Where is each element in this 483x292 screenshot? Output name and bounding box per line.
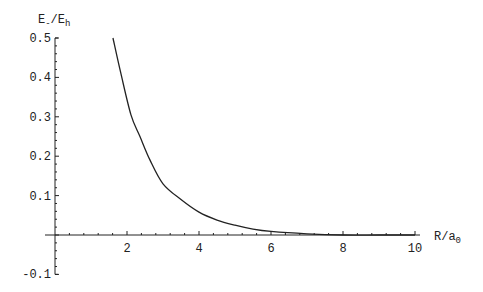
x-tick-label: 8 (339, 242, 346, 256)
x-tick-label: 4 (195, 242, 202, 256)
y-tick-label: -0.1 (22, 268, 51, 282)
y-tick-label: 0.3 (29, 111, 51, 125)
x-tick-label: 6 (267, 242, 274, 256)
chart: -0.10.10.20.30.40.5246810 E-/Eh R/a0 (0, 0, 483, 292)
tick-labels: -0.10.10.20.30.40.5246810 (22, 32, 422, 282)
x-tick-label: 2 (123, 242, 130, 256)
y-tick-label: 0.4 (29, 71, 51, 85)
axes (45, 38, 420, 274)
y-tick-label: 0.1 (29, 190, 51, 204)
y-tick-label: 0.5 (29, 32, 51, 46)
y-tick-label: 0.2 (29, 150, 51, 164)
y-axis-label: E-/Eh (38, 13, 70, 29)
x-tick-label: 10 (408, 242, 422, 256)
ticks (55, 38, 415, 274)
x-axis-label: R/a0 (434, 230, 461, 246)
energy-curve (113, 38, 415, 235)
